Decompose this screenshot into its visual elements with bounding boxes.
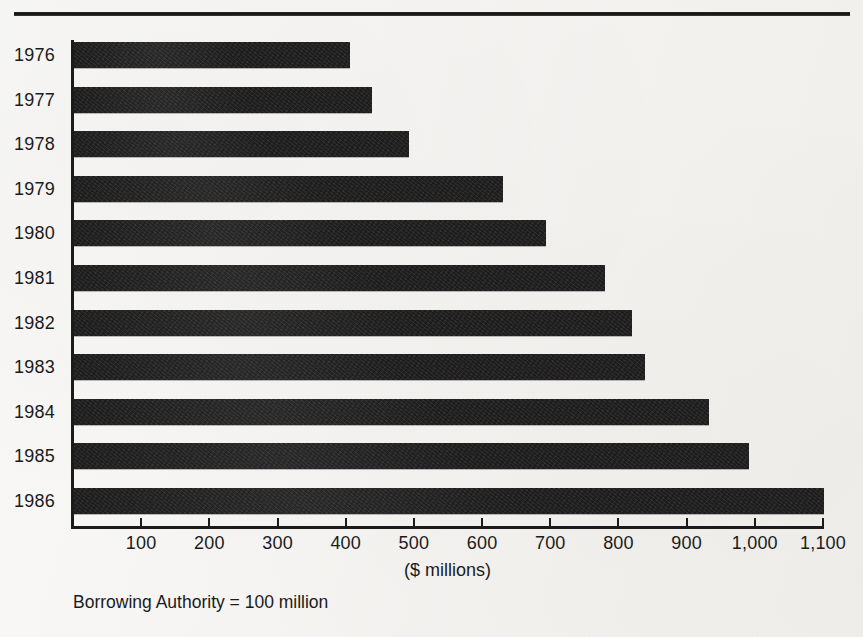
y-axis-label-1983: 1983 xyxy=(14,357,66,378)
bar-row xyxy=(74,354,645,380)
y-axis-label-1985: 1985 xyxy=(14,446,66,467)
bar-1979 xyxy=(74,176,503,202)
bar-row xyxy=(74,87,372,113)
x-tick-900 xyxy=(686,518,688,529)
bar-1980 xyxy=(74,220,546,246)
bar-row xyxy=(74,488,824,514)
y-axis-label-1978: 1978 xyxy=(14,134,66,155)
x-tick-1000 xyxy=(754,518,756,529)
chart-footnote: Borrowing Authority = 100 million xyxy=(73,592,328,613)
bar-1982 xyxy=(74,310,632,336)
bar-chart-plot-area: 1976197719781979198019811982198319841985… xyxy=(0,0,863,637)
bar-row xyxy=(74,42,350,68)
y-axis-label-1977: 1977 xyxy=(14,90,66,111)
bar-row xyxy=(74,176,503,202)
x-tick-1100 xyxy=(822,518,824,529)
bar-1986 xyxy=(74,488,824,514)
x-tick-label-1000: 1,000 xyxy=(732,533,778,554)
x-tick-100 xyxy=(140,518,142,529)
x-tick-700 xyxy=(549,518,551,529)
bar-1976 xyxy=(74,42,350,68)
x-tick-200 xyxy=(208,518,210,529)
bar-1983 xyxy=(74,354,645,380)
bar-row xyxy=(74,310,632,336)
bar-1985 xyxy=(74,443,749,469)
x-tick-label-300: 300 xyxy=(262,533,293,554)
x-tick-400 xyxy=(345,518,347,529)
bar-1977 xyxy=(74,87,372,113)
y-axis-label-1979: 1979 xyxy=(14,179,66,200)
x-tick-label-600: 600 xyxy=(467,533,498,554)
bar-row xyxy=(74,131,409,157)
x-tick-label-100: 100 xyxy=(126,533,157,554)
x-tick-label-400: 400 xyxy=(330,533,361,554)
y-axis-label-1984: 1984 xyxy=(14,402,66,423)
y-axis-label-1981: 1981 xyxy=(14,268,66,289)
x-tick-label-500: 500 xyxy=(399,533,430,554)
x-tick-label-900: 900 xyxy=(671,533,702,554)
bar-1978 xyxy=(74,131,409,157)
bar-row xyxy=(74,265,605,291)
x-axis-line xyxy=(71,526,824,529)
x-tick-500 xyxy=(413,518,415,529)
x-axis-title: ($ millions) xyxy=(0,560,863,581)
x-axis-title-text: ($ millions) xyxy=(404,560,491,580)
bar-1984 xyxy=(74,399,709,425)
chart-page: 1976197719781979198019811982198319841985… xyxy=(0,0,863,637)
y-axis-label-1986: 1986 xyxy=(14,491,66,512)
x-tick-600 xyxy=(481,518,483,529)
bar-row xyxy=(74,443,749,469)
x-tick-300 xyxy=(277,518,279,529)
bar-row xyxy=(74,399,709,425)
y-axis-label-1976: 1976 xyxy=(14,45,66,66)
x-tick-label-800: 800 xyxy=(603,533,634,554)
y-axis-label-1982: 1982 xyxy=(14,313,66,334)
x-tick-label-1100: 1,100 xyxy=(800,533,846,554)
bar-1981 xyxy=(74,265,605,291)
x-tick-800 xyxy=(617,518,619,529)
y-axis-label-1980: 1980 xyxy=(14,223,66,244)
x-tick-label-700: 700 xyxy=(535,533,566,554)
bar-row xyxy=(74,220,546,246)
x-tick-label-200: 200 xyxy=(194,533,225,554)
